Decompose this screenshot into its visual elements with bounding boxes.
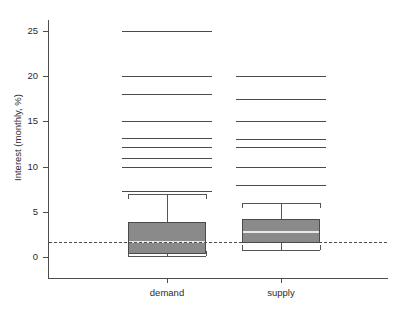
y-tick-mark — [43, 31, 48, 32]
whisker-cap-tick — [128, 194, 129, 199]
y-tick-mark — [43, 121, 48, 122]
outlier-marker — [236, 121, 326, 122]
whisker-cap-tick — [242, 203, 243, 208]
y-tick-label: 0 — [8, 252, 38, 262]
y-axis-spine — [48, 20, 49, 279]
outlier-marker — [122, 94, 212, 95]
y-tick-mark — [43, 257, 48, 258]
outlier-marker — [122, 31, 212, 32]
whisker-upper — [167, 194, 168, 222]
outlier-marker — [236, 99, 326, 100]
outlier-marker — [236, 185, 326, 186]
outlier-marker — [236, 167, 326, 168]
y-tick-label: 15 — [8, 116, 38, 126]
outlier-marker — [122, 191, 212, 192]
y-tick-mark — [43, 167, 48, 168]
whisker-cap-tick — [206, 194, 207, 199]
whisker-cap-tick — [206, 251, 207, 256]
x-tick-mark — [281, 278, 282, 283]
whisker-cap-lower — [242, 250, 320, 251]
reference-line — [49, 242, 387, 243]
whisker-cap-lower — [128, 256, 206, 257]
outlier-marker — [122, 121, 212, 122]
y-tick-label: 20 — [8, 71, 38, 81]
whisker-cap-tick — [242, 245, 243, 250]
y-tick-label: 25 — [8, 26, 38, 36]
outlier-marker — [122, 158, 212, 159]
plot-area: Interest (monthly, %) 2520151050demandsu… — [0, 0, 398, 315]
outlier-marker — [122, 167, 212, 168]
median-line-supply — [243, 231, 319, 233]
y-tick-mark — [43, 76, 48, 77]
whisker-cap-tick — [320, 245, 321, 250]
whisker-upper — [281, 203, 282, 219]
whisker-lower — [281, 243, 282, 250]
y-tick-mark — [43, 212, 48, 213]
boxplot-figure: Interest (monthly, %) 2520151050demandsu… — [0, 0, 398, 315]
outlier-marker — [236, 76, 326, 77]
y-tick-label: 10 — [8, 162, 38, 172]
outlier-marker — [122, 76, 212, 77]
whisker-cap-tick — [320, 203, 321, 208]
outlier-marker — [122, 138, 212, 139]
x-tick-label-supply: supply — [241, 288, 321, 298]
y-axis-label: Interest (monthly, %) — [12, 58, 23, 218]
box-demand — [128, 222, 206, 255]
x-tick-label-demand: demand — [127, 288, 207, 298]
outlier-marker — [236, 139, 326, 140]
x-axis-spine — [48, 278, 388, 279]
whisker-cap-upper — [242, 203, 320, 204]
whisker-cap-upper — [128, 194, 206, 195]
y-tick-label: 5 — [8, 207, 38, 217]
outlier-marker — [236, 147, 326, 148]
x-tick-mark — [167, 278, 168, 283]
outlier-marker — [122, 147, 212, 148]
